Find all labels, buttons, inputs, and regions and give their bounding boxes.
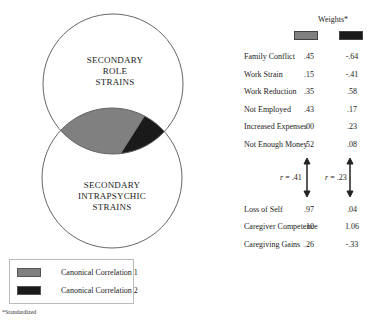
- variable-label: Not Enough Money: [244, 140, 308, 149]
- legend-swatch-canonical-1: [17, 268, 41, 277]
- correlation-1-label: r = .41: [280, 173, 302, 182]
- variable-label: Loss of Self: [244, 205, 283, 214]
- r-value: = .41: [283, 173, 302, 182]
- weight-row: Work Strain .15 -.41: [244, 70, 375, 82]
- cc1-value: .26: [301, 240, 317, 249]
- variable-label: Not Employed: [244, 105, 291, 114]
- intrapsychic-strains-label: SECONDARY INTRAPSYCHIC STRAINS: [62, 180, 162, 213]
- double-arrow-icon: [347, 158, 353, 197]
- variable-label: Increased Expenses: [244, 122, 307, 131]
- weight-row: Loss of Self .97 .04: [244, 205, 375, 217]
- legend-swatch-canonical-2: [17, 286, 41, 295]
- weight-row: Not Employed .43 .17: [244, 105, 375, 117]
- label-line: STRAINS: [70, 77, 160, 88]
- cc1-value: .45: [301, 52, 317, 61]
- cc1-value: .15: [301, 70, 317, 79]
- weight-row: Caregiver Competence .10 1.06: [244, 222, 375, 234]
- cc1-value: .97: [301, 205, 317, 214]
- header-swatch-canonical-2: [339, 31, 363, 40]
- header-swatch-canonical-1: [294, 31, 318, 40]
- cc2-value: .17: [343, 105, 361, 114]
- variable-label: Caregiving Gains: [244, 240, 300, 249]
- variable-label: Family Conflict: [244, 52, 295, 61]
- label-line: SECONDARY: [62, 180, 162, 191]
- footnote: *Standardized: [2, 309, 36, 315]
- label-line: INTRAPSYCHIC: [62, 191, 162, 202]
- cc2-value: .04: [343, 205, 361, 214]
- cc2-value: -.41: [343, 70, 361, 79]
- cc2-value: .58: [343, 87, 361, 96]
- legend-label: Canonical Correlation 1: [61, 268, 138, 277]
- double-arrows: [300, 157, 360, 199]
- weight-row: Family Conflict .45 -.64: [244, 52, 375, 64]
- weights-title: Weights*: [318, 15, 348, 24]
- cc2-value: .23: [343, 122, 361, 131]
- label-line: SECONDARY: [70, 55, 160, 66]
- cc1-value: .00: [301, 122, 317, 131]
- weight-row: Increased Expenses .00 .23: [244, 122, 375, 134]
- weight-row: Caregiving Gains .26 -.33: [244, 240, 375, 252]
- double-arrow-icon: [304, 158, 310, 197]
- cc2-value: .08: [343, 140, 361, 149]
- weight-row: Not Enough Money .52 .08: [244, 140, 375, 152]
- cc2-value: -.64: [343, 52, 361, 61]
- legend-label: Canonical Correlation 2: [61, 286, 138, 295]
- cc1-value: .10: [301, 222, 317, 231]
- weight-row: Work Reduction .35 .58: [244, 87, 375, 99]
- cc1-value: .35: [301, 87, 317, 96]
- venn-diagram: [0, 0, 200, 255]
- label-line: STRAINS: [62, 202, 162, 213]
- overlap-region: [42, 108, 200, 248]
- variable-label: Work Strain: [244, 70, 283, 79]
- label-line: ROLE: [70, 66, 160, 77]
- variable-label: Work Reduction: [244, 87, 296, 96]
- legend: Canonical Correlation 1 Canonical Correl…: [9, 259, 134, 304]
- cc1-value: .43: [301, 105, 317, 114]
- cc2-value: 1.06: [343, 222, 361, 231]
- cc1-value: .52: [301, 140, 317, 149]
- role-strains-label: SECONDARY ROLE STRAINS: [70, 55, 160, 88]
- cc2-value: -.33: [343, 240, 361, 249]
